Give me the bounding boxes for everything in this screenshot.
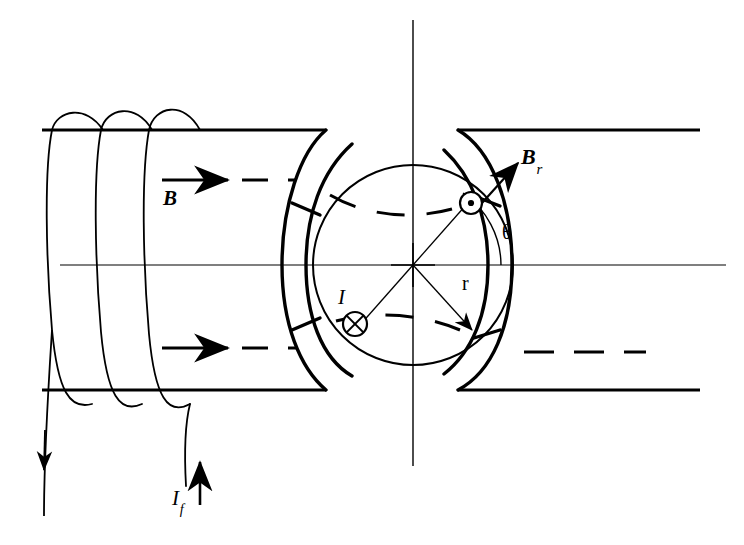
coil-turn-1 <box>47 113 103 405</box>
circle-dot-icon <box>460 192 482 214</box>
label-b-field: B <box>163 188 177 209</box>
coil-turn-3 <box>144 110 200 408</box>
label-theta: θ <box>502 222 512 242</box>
circle-dot-center <box>468 200 474 206</box>
radius-lines <box>360 205 472 330</box>
b-radial-arrow <box>482 163 518 203</box>
axis-lines <box>60 20 726 466</box>
label-b-radial-main: B <box>521 144 536 169</box>
left-pole-outer-arc <box>282 130 326 390</box>
coil-turn-2 <box>96 111 152 406</box>
pole-face-arcs <box>282 130 512 390</box>
radius-line-to-upper-conductor <box>413 205 466 265</box>
label-b-radial-subscript: r <box>537 161 543 177</box>
label-conductor-current: I <box>338 287 345 308</box>
label-b-radial: Br <box>521 146 542 172</box>
flux-dash-upper-inner <box>330 195 452 215</box>
circle-cross-icon <box>343 312 367 336</box>
coil-lead-wire <box>185 404 190 486</box>
field-coil-windings <box>47 110 200 486</box>
return-conductor-wire <box>44 330 52 516</box>
return-current-arrow <box>44 430 45 470</box>
return-conductor <box>44 330 52 516</box>
machine-cross-section-figure: B Br θ r I If <box>0 0 744 545</box>
diagram-canvas <box>0 0 744 545</box>
centre-crosshair <box>391 243 435 287</box>
label-field-current: If <box>172 488 183 512</box>
label-field-current-main: I <box>172 486 179 510</box>
label-radius-r: r <box>462 273 469 293</box>
label-field-current-subscript: f <box>180 501 184 517</box>
right-pole-inner-arc <box>444 150 488 374</box>
radial-field-arrow-group <box>482 163 518 203</box>
